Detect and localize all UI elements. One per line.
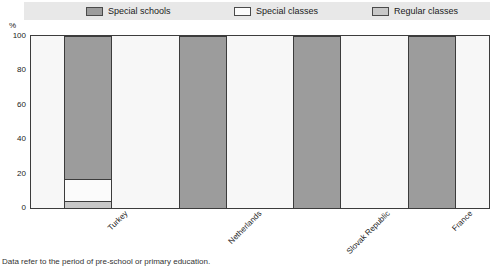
legend-label-special-classes: Special classes [256,6,318,16]
legend-item-regular-classes: Regular classes [372,6,458,16]
x-axis-label-france: France [450,209,474,233]
legend-item-special-classes: Special classes [234,6,318,16]
legend-label-regular-classes: Regular classes [394,6,458,16]
bar-segment-special-schools [64,36,112,179]
bar-netherlands [179,36,227,208]
bar-turkey [64,36,112,208]
y-axis-tick-label-0: 0 [2,203,26,212]
bar-slovak-republic [293,36,341,208]
y-axis-tick-label-40: 40 [2,134,26,143]
bar-segment-special-schools [179,36,227,208]
bar-france [408,36,456,208]
x-axis-label-turkey: Turkey [106,209,129,232]
legend-label-special-schools: Special schools [108,6,171,16]
y-axis-tick-label-100: 100 [2,31,26,40]
bar-segment-regular-classes [64,201,112,208]
legend-item-special-schools: Special schools [86,6,171,16]
x-axis-label-slovak-republic: Slovak Republic [345,209,392,256]
y-axis-unit-label: % [9,21,16,30]
legend-swatch-special-schools [86,7,103,16]
x-axis-labels: TurkeyNetherlandsSlovak RepublicFrance [30,209,490,251]
plot-area [30,35,490,209]
y-axis-tick-label-20: 20 [2,168,26,177]
y-axis-tick-label-80: 80 [2,65,26,74]
y-axis-tick-label-60: 60 [2,99,26,108]
chart-footnote: Data refer to the period of pre-school o… [2,257,210,266]
bar-segment-special-schools [408,36,456,208]
bars-container [31,36,489,208]
legend-swatch-regular-classes [372,7,389,16]
x-axis-label-netherlands: Netherlands [226,209,263,246]
chart-legend: Special schools Special classes Regular … [24,2,490,20]
bar-segment-special-schools [293,36,341,208]
y-axis: 100806040200 [0,35,30,209]
bar-segment-special-classes [64,179,112,201]
legend-swatch-special-classes [234,7,251,16]
